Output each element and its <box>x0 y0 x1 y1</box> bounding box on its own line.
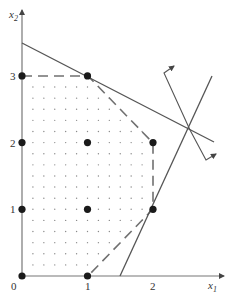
integer-point <box>149 139 156 146</box>
y-tick-3: 3 <box>10 70 16 82</box>
x-tick-2: 2 <box>150 280 156 292</box>
x-tick-1: 1 <box>85 280 91 292</box>
integer-point <box>84 139 91 146</box>
integer-point <box>149 206 156 213</box>
ip-diagram: 0 1 2 1 2 3 x1 x2 <box>0 0 232 306</box>
integer-point <box>18 272 25 279</box>
y-axis-label: x2 <box>8 8 18 23</box>
integer-point <box>18 206 25 213</box>
normal-arrow-upper <box>164 66 190 130</box>
integer-point <box>84 206 91 213</box>
x-axis-label: x1 <box>207 279 217 294</box>
integer-point <box>84 72 91 79</box>
lp-region-dots <box>32 86 143 265</box>
constraint-line-2 <box>120 76 212 276</box>
integer-point <box>84 272 91 279</box>
integer-point <box>18 139 25 146</box>
y-tick-2: 2 <box>10 137 16 149</box>
y-tick-1: 1 <box>10 203 16 215</box>
constraint-line-1 <box>22 43 214 142</box>
integer-point <box>18 72 25 79</box>
normal-arrow-lower <box>190 130 216 160</box>
x-tick-0: 0 <box>11 280 17 292</box>
